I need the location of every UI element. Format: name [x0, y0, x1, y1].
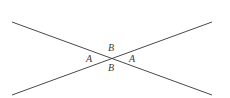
lines-canvas [0, 0, 230, 98]
intersecting-lines-figure: B A A B [0, 0, 230, 98]
angle-label-top: B [108, 43, 114, 53]
angle-label-right: A [129, 54, 135, 64]
angle-label-left: A [86, 54, 92, 64]
angle-label-bottom: B [108, 63, 114, 73]
